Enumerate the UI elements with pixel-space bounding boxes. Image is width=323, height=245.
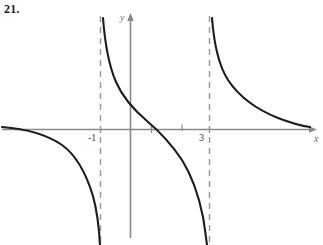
curve-right-branch — [212, 18, 310, 127]
curve-middle-branch — [103, 18, 207, 245]
asymptotes — [101, 16, 210, 245]
y-axis — [127, 13, 134, 238]
x-tick-label-three: 3 — [199, 132, 204, 143]
function-graph: y x -1 3 — [0, 0, 323, 245]
y-axis-label: y — [119, 12, 125, 23]
x-tick-label-minus-one: -1 — [88, 132, 96, 143]
y-axis-arrowhead — [127, 13, 134, 21]
curve-group — [2, 18, 310, 245]
x-axis-label: x — [313, 133, 319, 144]
curve-left-branch — [2, 127, 100, 245]
